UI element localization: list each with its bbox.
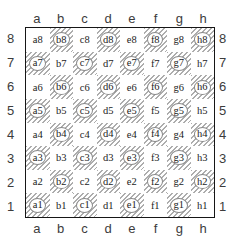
square-label-a5: a5 — [29, 103, 46, 118]
square-d2: d2 — [97, 170, 121, 194]
rank-label-4-right: 4 — [219, 127, 226, 142]
left-rank-labels: 87654321 — [0, 27, 25, 218]
square-f2: f2 — [144, 170, 168, 194]
square-label-g4: g4 — [174, 129, 185, 140]
square-label-e6: e6 — [127, 82, 137, 93]
square-g2: g2 — [167, 170, 191, 194]
square-d8: d8 — [97, 28, 121, 52]
square-f3: f3 — [144, 146, 168, 170]
square-b5: b5 — [50, 99, 74, 123]
rank-label-5-right: 5 — [219, 103, 226, 118]
square-label-g3: g3 — [170, 150, 188, 165]
square-label-d4: d4 — [100, 127, 118, 142]
square-h8: h8 — [191, 28, 215, 52]
square-c2: c2 — [73, 170, 97, 194]
file-label-f-bottom: f — [154, 221, 158, 236]
square-label-a3: a3 — [29, 150, 46, 165]
square-g4: g4 — [167, 123, 191, 147]
square-label-f1: f1 — [151, 200, 160, 211]
square-e3: e3 — [120, 146, 144, 170]
square-label-a8: a8 — [33, 34, 43, 45]
rank-label-1-right: 1 — [219, 199, 226, 214]
square-label-e2: e2 — [127, 176, 137, 187]
rank-label-3-left: 3 — [7, 151, 14, 166]
square-a7: a7 — [26, 52, 50, 76]
square-label-a1: a1 — [29, 198, 46, 213]
square-e8: e8 — [120, 28, 144, 52]
file-label-c-top: c — [81, 11, 88, 26]
file-label-h-top: h — [200, 11, 207, 26]
square-c1: c1 — [73, 193, 97, 217]
square-label-d8: d8 — [100, 32, 118, 47]
square-label-a4: a4 — [33, 129, 43, 140]
square-label-e3: e3 — [123, 150, 140, 165]
square-label-a7: a7 — [29, 56, 46, 71]
square-label-b4: b4 — [53, 127, 71, 142]
square-label-d5: d5 — [103, 105, 114, 116]
file-label-e-top: e — [128, 11, 135, 26]
rank-label-2-left: 2 — [7, 175, 14, 190]
square-label-b8: b8 — [53, 32, 71, 47]
square-g7: g7 — [167, 52, 191, 76]
square-e4: e4 — [120, 123, 144, 147]
square-b1: b1 — [50, 193, 74, 217]
square-label-c4: c4 — [80, 129, 90, 140]
file-label-a-bottom: a — [33, 221, 40, 236]
file-label-b-bottom: b — [57, 221, 64, 236]
square-f5: f5 — [144, 99, 168, 123]
square-f8: f8 — [144, 28, 168, 52]
square-label-a6: a6 — [33, 82, 43, 93]
square-f4: f4 — [144, 123, 168, 147]
square-label-g5: g5 — [170, 103, 188, 118]
square-h5: h5 — [191, 99, 215, 123]
square-f6: f6 — [144, 75, 168, 99]
chessboard: a8b8c8d8e8f8g8h8a7b7c7d7e7f7g7h7a6b6c6d6… — [25, 27, 215, 218]
square-label-c5: c5 — [76, 103, 93, 118]
square-label-b1: b1 — [56, 200, 67, 211]
file-label-d-top: d — [105, 11, 112, 26]
rank-label-8-left: 8 — [7, 31, 14, 46]
square-label-g8: g8 — [174, 34, 185, 45]
square-label-h5: h5 — [197, 105, 208, 116]
rank-label-6-right: 6 — [219, 79, 226, 94]
square-label-c6: c6 — [80, 82, 90, 93]
square-e6: e6 — [120, 75, 144, 99]
square-c8: c8 — [73, 28, 97, 52]
square-label-f4: f4 — [147, 127, 163, 142]
square-f7: f7 — [144, 52, 168, 76]
square-label-d1: d1 — [103, 200, 114, 211]
square-label-b7: b7 — [56, 58, 67, 69]
square-label-f5: f5 — [151, 105, 160, 116]
square-label-f6: f6 — [147, 80, 163, 95]
square-a2: a2 — [26, 170, 50, 194]
square-label-c7: c7 — [76, 56, 93, 71]
board-middle-band: 87654321 a8b8c8d8e8f8g8h8a7b7c7d7e7f7g7h… — [0, 27, 239, 218]
square-label-h4: h4 — [194, 127, 212, 142]
square-label-e5: e5 — [123, 103, 140, 118]
square-g1: g1 — [167, 193, 191, 217]
rank-label-1-left: 1 — [7, 199, 14, 214]
top-file-labels: abcdefgh — [25, 0, 215, 27]
file-label-g-top: g — [176, 11, 183, 26]
square-label-f2: f2 — [147, 174, 163, 189]
square-d1: d1 — [97, 193, 121, 217]
square-a5: a5 — [26, 99, 50, 123]
square-a8: a8 — [26, 28, 50, 52]
square-label-d6: d6 — [100, 80, 118, 95]
chessboard-diagram: abcdefgh 87654321 a8b8c8d8e8f8g8h8a7b7c7… — [0, 0, 239, 250]
square-d7: d7 — [97, 52, 121, 76]
square-label-g2: g2 — [174, 176, 185, 187]
file-label-h-bottom: h — [200, 221, 207, 236]
square-a1: a1 — [26, 193, 50, 217]
file-label-c-bottom: c — [81, 221, 88, 236]
file-label-e-bottom: e — [128, 221, 135, 236]
square-label-e8: e8 — [127, 34, 137, 45]
square-e2: e2 — [120, 170, 144, 194]
square-g3: g3 — [167, 146, 191, 170]
bottom-file-labels: abcdefgh — [25, 218, 215, 250]
rank-label-7-left: 7 — [7, 55, 14, 70]
square-label-d2: d2 — [100, 174, 118, 189]
square-a6: a6 — [26, 75, 50, 99]
square-e7: e7 — [120, 52, 144, 76]
square-label-c8: c8 — [80, 34, 90, 45]
